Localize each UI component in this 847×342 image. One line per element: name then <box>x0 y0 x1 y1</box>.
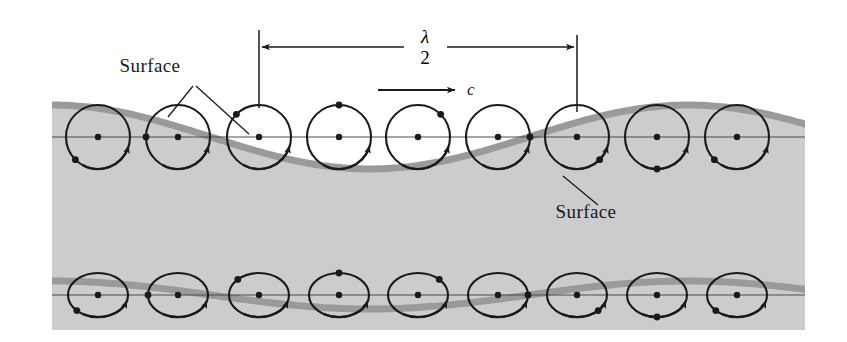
orbit-center-dot-lower-6 <box>495 292 501 298</box>
orbit-center-dot-lower-9 <box>734 292 740 298</box>
orbit-center-dot-lower-2 <box>175 292 181 298</box>
orbit-center-dot-upper-6 <box>495 134 501 140</box>
orbit-center-dot-upper-1 <box>95 134 101 140</box>
surface-leader-upper-left <box>168 86 193 117</box>
orbit-center-dot-lower-5 <box>415 292 421 298</box>
orbit-phase-dot-lower-4 <box>336 270 343 277</box>
orbit-phase-dot-lower-9 <box>712 307 719 314</box>
orbit-center-dot-upper-3 <box>256 134 262 140</box>
orbit-center-dot-lower-4 <box>336 292 342 298</box>
orbit-phase-dot-lower-1 <box>73 307 80 314</box>
wave-orbital-motion-figure: Surface Surface λ 2 c <box>0 0 847 342</box>
orbit-center-dot-upper-7 <box>574 134 580 140</box>
denominator-two: 2 <box>420 48 430 67</box>
orbit-center-dot-upper-9 <box>734 134 740 140</box>
orbit-phase-dot-upper-9 <box>711 156 718 163</box>
orbit-phase-dot-upper-1 <box>72 156 79 163</box>
orbit-center-dot-lower-1 <box>95 292 101 298</box>
surface-label-lower: Surface <box>556 201 617 223</box>
orbit-phase-dot-upper-5 <box>437 111 444 118</box>
orbit-phase-dot-lower-6 <box>525 292 532 299</box>
orbit-center-dot-lower-7 <box>574 292 580 298</box>
orbit-phase-dot-lower-5 <box>436 276 443 283</box>
orbit-phase-dot-upper-3 <box>233 111 240 118</box>
orbit-phase-dot-upper-2 <box>143 134 150 141</box>
orbit-upper-4 <box>307 102 371 169</box>
half-wavelength-label: λ 2 <box>420 27 430 67</box>
orbit-center-dot-lower-3 <box>256 292 262 298</box>
orbit-phase-dot-lower-2 <box>145 292 152 299</box>
surface-label-upper: Surface <box>120 55 181 77</box>
orbit-phase-dot-lower-3 <box>234 276 241 283</box>
orbit-center-dot-upper-5 <box>415 134 421 140</box>
orbit-center-dot-upper-8 <box>654 134 660 140</box>
orbit-phase-dot-upper-6 <box>527 134 534 141</box>
water-and-orbits-group <box>50 102 807 330</box>
orbit-center-dot-upper-4 <box>336 134 342 140</box>
lambda-symbol: λ <box>420 27 430 46</box>
orbit-phase-dot-upper-4 <box>336 102 343 109</box>
celerity-label: c <box>467 80 475 100</box>
water-body-fill <box>52 105 805 330</box>
orbit-center-dot-upper-2 <box>175 134 181 140</box>
orbit-center-dot-lower-8 <box>654 292 660 298</box>
